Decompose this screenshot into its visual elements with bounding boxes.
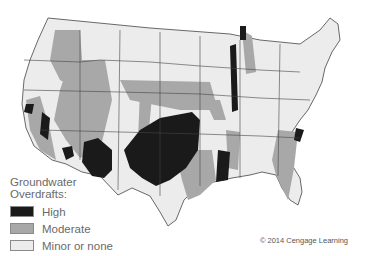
legend-title-line2: Overdrafts: (10, 188, 113, 200)
legend-item-moderate: Moderate (10, 220, 113, 237)
legend-title-line1: Groundwater (10, 176, 113, 188)
legend-label-high: High (42, 206, 66, 218)
legend-item-minor: Minor or none (10, 237, 113, 254)
copyright-credit: © 2014 Cengage Learning (260, 236, 348, 245)
legend: Groundwater Overdrafts: High Moderate Mi… (10, 176, 113, 254)
moderate-swatch (10, 223, 34, 234)
legend-label-minor: Minor or none (42, 240, 113, 252)
high-swatch (10, 206, 34, 217)
legend-item-high: High (10, 203, 113, 220)
minor-swatch (10, 240, 34, 251)
legend-title: Groundwater Overdrafts: (10, 176, 113, 200)
legend-label-moderate: Moderate (42, 223, 91, 235)
